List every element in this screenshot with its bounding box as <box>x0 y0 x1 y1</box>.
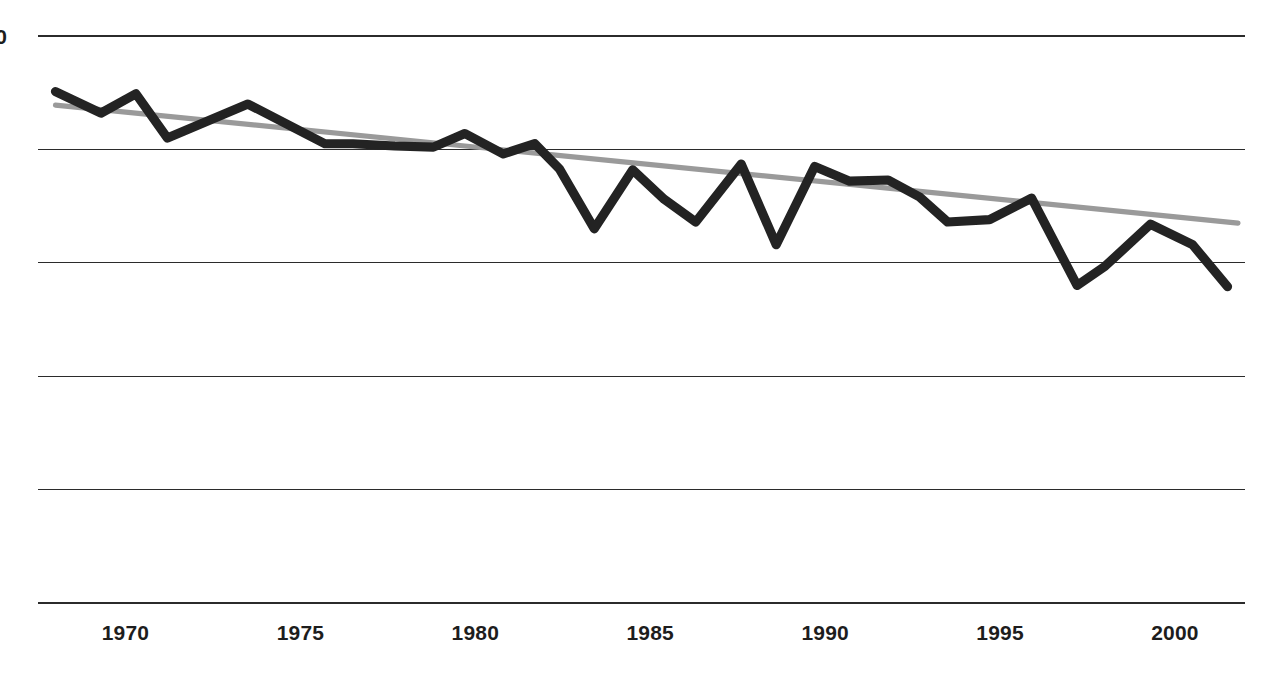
x-tick-label-1970: 1970 <box>102 622 150 643</box>
x-tick-label-1990: 1990 <box>801 622 849 643</box>
trend-line-series <box>55 105 1238 223</box>
trend-line <box>55 105 1238 223</box>
x-tick-label-2000: 2000 <box>1151 622 1199 643</box>
x-tick-label-1985: 1985 <box>626 622 674 643</box>
chart-container: 1970197519801985199019952000 10090807060… <box>0 0 1268 698</box>
x-tick-label-1980: 1980 <box>452 622 500 643</box>
chart-plot-area <box>0 0 1268 698</box>
x-tick-label-1995: 1995 <box>976 622 1024 643</box>
y-tick-label-100: 100 <box>0 26 7 47</box>
x-tick-label-1975: 1975 <box>277 622 325 643</box>
